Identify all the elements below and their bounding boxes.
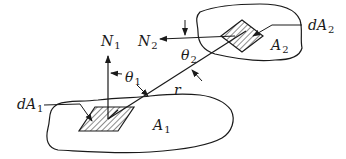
label-n2-sub: 2: [151, 40, 157, 51]
label-a1-base: A: [153, 117, 163, 133]
label-theta2-base: θ: [181, 47, 189, 63]
label-a1-sub: 1: [164, 124, 170, 135]
label-da1-base: dA: [17, 96, 36, 112]
diagram-canvas: [0, 0, 346, 159]
label-da2-sub: 2: [328, 24, 334, 35]
label-n2-base: N: [138, 33, 150, 49]
label-theta2: θ2: [181, 48, 197, 65]
label-n1: N1: [101, 34, 121, 51]
label-n2: N2: [138, 34, 158, 51]
label-a2-sub: 2: [282, 44, 288, 55]
label-theta1-base: θ: [125, 69, 133, 85]
element-da1: [79, 107, 134, 131]
label-da1: dA1: [17, 97, 43, 114]
label-n1-base: N: [101, 33, 113, 49]
label-a2-base: A: [271, 37, 281, 53]
label-theta1-sub: 1: [134, 76, 140, 87]
label-theta1: θ1: [125, 70, 141, 87]
label-theta2-sub: 2: [190, 54, 196, 65]
label-n1-sub: 1: [114, 40, 120, 51]
theta1-arrow-left: [111, 73, 122, 74]
label-da2-base: dA: [308, 17, 327, 33]
surface-a1-outline: [47, 94, 233, 152]
label-da2: dA2: [308, 18, 334, 35]
leader-da1: [44, 104, 92, 121]
theta2-arrow-bottom: [192, 70, 202, 81]
label-r-base: r: [174, 82, 181, 98]
label-a2: A2: [271, 38, 289, 55]
label-r: r: [174, 83, 181, 97]
label-da1-sub: 1: [37, 103, 43, 114]
label-a1: A1: [153, 118, 171, 135]
